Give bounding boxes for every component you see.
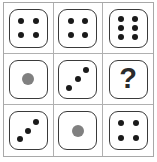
die-face-three (9, 111, 48, 150)
die-pip (22, 73, 34, 85)
die-pip (33, 119, 39, 125)
die-pip (72, 125, 84, 137)
die-face-six (109, 9, 148, 48)
matrix-cell-cell-r1c1 (4, 3, 54, 54)
die-face-four (58, 9, 97, 48)
die-face-one (9, 60, 48, 99)
die-pip (133, 120, 139, 126)
die-pip (68, 32, 74, 38)
matrix-cell-cell-r2c3: ? (103, 54, 153, 105)
die-pip (133, 135, 139, 141)
die-pip (75, 76, 81, 82)
die-pip (118, 135, 124, 141)
die-pip (132, 34, 138, 40)
die-pip (18, 18, 24, 24)
die-face-four (109, 111, 148, 150)
die-pip (33, 18, 39, 24)
die-face-one (58, 111, 97, 150)
die-pip (17, 136, 23, 142)
matrix-cell-cell-r3c3 (103, 105, 153, 156)
die-pip (25, 128, 31, 134)
die-pip (118, 120, 124, 126)
die-pip (118, 34, 124, 40)
die-pip (68, 18, 74, 24)
die-pip (66, 85, 72, 91)
die-pip (82, 32, 88, 38)
matrix-cell-cell-r3c2 (54, 105, 104, 156)
matrix-cell-cell-r1c3 (103, 3, 153, 54)
die-pip (132, 25, 138, 31)
dice-matrix-puzzle: ? (0, 0, 157, 162)
matrix-cell-cell-r2c1 (4, 54, 54, 105)
die-pip (82, 18, 88, 24)
die-pip (33, 32, 39, 38)
die-pip (132, 16, 138, 22)
matrix-cell-cell-r3c1 (4, 105, 54, 156)
question-mark-label: ? (119, 64, 137, 93)
die-pip (18, 32, 24, 38)
matrix-grid: ? (3, 2, 154, 157)
matrix-cell-cell-r2c2 (54, 54, 104, 105)
die-pip (118, 16, 124, 22)
die-face-three (58, 60, 97, 99)
die-pip (118, 25, 124, 31)
die-pip (83, 67, 89, 73)
die-face-four (9, 9, 48, 48)
question-die: ? (109, 60, 148, 99)
matrix-cell-cell-r1c2 (54, 3, 104, 54)
